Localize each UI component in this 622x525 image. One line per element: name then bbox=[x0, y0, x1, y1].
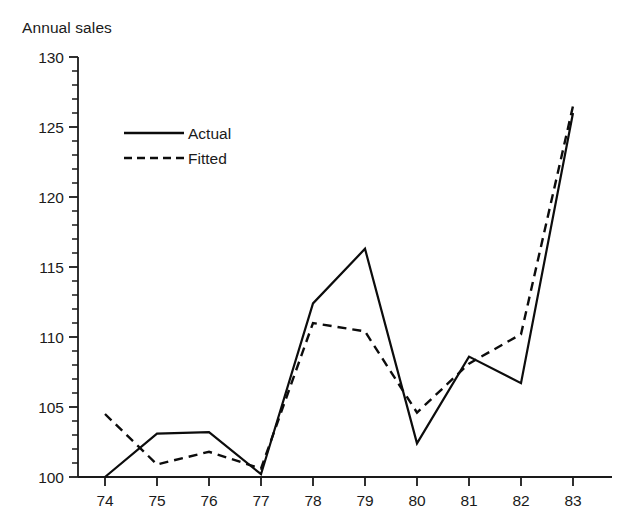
y-tick-label: 120 bbox=[38, 189, 64, 206]
y-tick-label: 100 bbox=[38, 469, 64, 486]
y-axis-major-ticks bbox=[69, 57, 78, 477]
y-tick-label: 125 bbox=[38, 119, 64, 136]
x-tick-label: 82 bbox=[512, 492, 529, 509]
x-tick-label: 80 bbox=[408, 492, 426, 509]
x-tick-label: 83 bbox=[564, 492, 581, 509]
x-axis-tick-labels: 74757677787980818283 bbox=[96, 492, 581, 509]
x-axis-major-ticks bbox=[105, 477, 573, 486]
data-series-group bbox=[105, 106, 573, 477]
x-tick-label: 79 bbox=[356, 492, 373, 509]
x-tick-label: 77 bbox=[252, 492, 269, 509]
y-tick-label: 105 bbox=[38, 399, 64, 416]
chart-legend: Actual Fitted bbox=[124, 125, 231, 167]
chart-plot-area: 130125120115110105100 747576777879808182… bbox=[0, 0, 622, 525]
x-tick-label: 75 bbox=[148, 492, 165, 509]
x-tick-label: 81 bbox=[460, 492, 477, 509]
x-axis: 74757677787980818283 bbox=[78, 477, 612, 509]
legend-label-actual: Actual bbox=[188, 125, 231, 142]
y-tick-label: 115 bbox=[39, 259, 64, 276]
y-tick-label: 110 bbox=[39, 329, 64, 346]
y-axis: 130125120115110105100 bbox=[38, 49, 78, 486]
chart-container: Annual sales 130125120115110105100 74757… bbox=[0, 0, 622, 525]
legend-label-fitted: Fitted bbox=[188, 150, 227, 167]
y-axis-tick-labels: 130125120115110105100 bbox=[38, 49, 64, 486]
x-tick-label: 74 bbox=[96, 492, 114, 509]
series-line-fitted bbox=[105, 106, 573, 469]
series-line-actual bbox=[105, 113, 573, 477]
x-tick-label: 78 bbox=[304, 492, 321, 509]
y-tick-label: 130 bbox=[38, 49, 64, 66]
x-tick-label: 76 bbox=[200, 492, 217, 509]
